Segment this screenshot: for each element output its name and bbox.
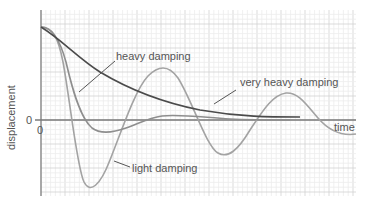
grid — [41, 10, 356, 196]
damping-chart: heavy damping very heavy damping light d… — [0, 0, 367, 208]
x-zero-label: 0 — [37, 124, 43, 136]
heavy-damping-label: heavy damping — [116, 50, 191, 62]
light-damping-label: light damping — [132, 162, 197, 174]
x-axis-label: time — [334, 121, 355, 133]
y-axis-label: displacement — [5, 85, 17, 150]
very-heavy-damping-label: very heavy damping — [240, 76, 338, 88]
y-zero-label: 0 — [26, 114, 32, 126]
